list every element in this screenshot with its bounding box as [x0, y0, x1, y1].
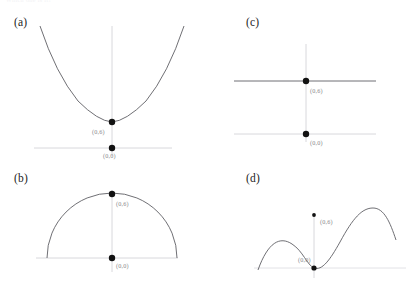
panel-b-label-origin: (0,0)	[116, 262, 129, 270]
panel-a-label-vertex: (0,6)	[92, 128, 105, 136]
panel-d-point-origin	[311, 265, 316, 270]
panel-b-plot: (0,6) (0,0)	[0, 170, 210, 298]
panel-d: (d) (0,6) (0,0)	[210, 170, 417, 298]
panel-c-label-origin: (0,0)	[310, 139, 323, 147]
panel-a-point-origin	[109, 145, 115, 151]
panel-b-point-origin	[109, 255, 115, 261]
panel-d-label-upper: (0,6)	[320, 218, 333, 226]
panel-d-plot: (0,6) (0,0)	[210, 170, 417, 298]
panel-a-point-vertex	[109, 119, 115, 125]
panel-d-label-origin: (0,0)	[298, 256, 311, 264]
panel-a-label-origin: (0,0)	[103, 152, 116, 160]
panel-c-point-line	[303, 78, 309, 84]
panel-c-plot: (0,6) (0,0)	[210, 14, 417, 170]
panel-b-point-apex	[109, 191, 115, 197]
panel-a: (a) (0,6) (0,0)	[0, 14, 210, 170]
panel-c-label-line: (0,6)	[310, 87, 323, 95]
panel-d-point-upper	[312, 213, 316, 217]
panel-c: (c) (0,6) (0,0)	[210, 14, 417, 170]
panel-b: (b) (0,6) (0,0)	[0, 170, 210, 298]
faint-header-text: Which one is it?	[6, 0, 52, 3]
panel-b-label-apex: (0,6)	[116, 200, 129, 208]
panel-a-plot: (0,6) (0,0)	[0, 14, 210, 170]
panel-c-point-origin	[303, 131, 309, 137]
figure-root: Which one is it? (a) (0,6) (0,0) (b) (0,…	[0, 0, 417, 298]
